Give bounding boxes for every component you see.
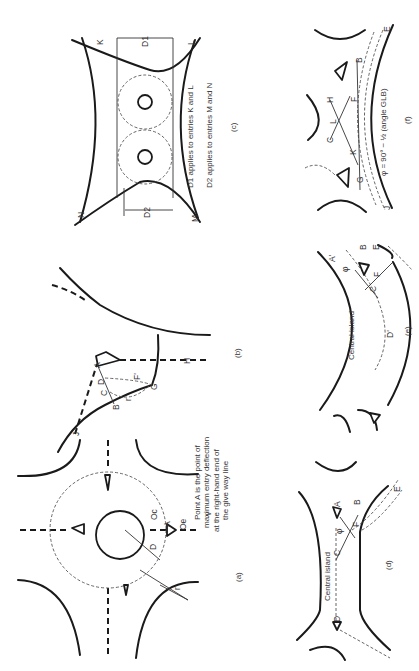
kerb-f-2 [318, 200, 366, 212]
label-L: L [186, 40, 196, 45]
note-a-3: at the right-hand end of [212, 448, 221, 532]
note-a-2: maximum entry deflection [202, 437, 211, 528]
label-phi: φ [340, 266, 350, 272]
label-J: J [382, 206, 392, 210]
caption-a: (a) [234, 572, 243, 582]
label-A: A [332, 501, 342, 507]
kerb-top [72, 38, 200, 71]
label-G: G [355, 176, 365, 183]
label-F-prime: F' [132, 373, 142, 380]
kerb-d-top [316, 462, 356, 471]
panel-b: A B C D F' G H J r (b) [52, 268, 242, 452]
label-N: N [76, 212, 86, 218]
label-M: M [190, 215, 200, 222]
label-A-prime: A' [327, 254, 337, 262]
caption-d: (d) [384, 560, 393, 570]
splitter-island-d2 [333, 622, 341, 630]
kerb-a-tr [136, 440, 198, 474]
label-Oc: Oc [149, 508, 159, 520]
label-J: J [71, 432, 81, 436]
mini-island-1 [138, 95, 152, 109]
label-C: C [325, 137, 335, 143]
panel-d: A B C D E F φ Central island (d) [297, 462, 402, 660]
kerb-a-bl [18, 580, 80, 655]
splitter-island-a-bottom [124, 585, 128, 595]
label-A: A [92, 362, 102, 368]
central-island-a [96, 511, 144, 559]
inscribed-circle-2 [118, 130, 172, 184]
caption-f: (f) [403, 116, 412, 124]
kerb-d-bottom [310, 647, 345, 660]
kerb-bottom [75, 181, 200, 225]
note-a-4: the give way line [221, 460, 230, 520]
kerb-f-1 [315, 30, 365, 39]
caption-b: (b) [233, 348, 242, 358]
splitter-island-f1 [335, 62, 347, 80]
kerb-a-br [136, 582, 198, 658]
label-C: C [99, 390, 109, 396]
island-label-d: Central island [323, 552, 332, 601]
splitter-island-d1 [333, 507, 341, 518]
kerb-f-island [307, 95, 319, 140]
label-C: C [332, 550, 342, 556]
kerb-b-upper [60, 268, 210, 335]
note-c-1: D1 applies to entries K and L [186, 85, 195, 188]
label-H: H [182, 358, 192, 364]
formula-f: φ = 90° − ½ (angle GLB) [379, 88, 388, 176]
label-r: r [123, 398, 133, 401]
label-E: E [382, 26, 392, 32]
label-B: B [352, 499, 362, 505]
island-label-e: Central island [347, 311, 356, 360]
label-F: F [349, 97, 359, 102]
label-D1: D1 [140, 36, 150, 47]
label-F: F [351, 522, 361, 527]
kerb-a-tl [18, 440, 80, 476]
label-K: K [95, 39, 105, 45]
splitter-island-e1 [359, 263, 369, 275]
caption-c: (c) [229, 122, 238, 132]
panel-e: A' B C D' E F φ Central island (e) [318, 244, 412, 432]
kerb-e-bottom-1 [334, 415, 350, 432]
label-r: r [172, 587, 182, 590]
note-c-2: D2 applies to entries M and N [205, 82, 214, 188]
splitter-island-a-top [105, 475, 110, 490]
label-E: E [371, 244, 381, 250]
roundabout-geometry-figure: D1 D2 K L M N D1 applies to entries K an… [0, 0, 419, 671]
label-B: B [111, 404, 121, 410]
label-B: B [358, 244, 368, 250]
label-phi: φ [334, 528, 344, 534]
mini-island-2 [138, 150, 152, 164]
label-F: F [372, 272, 382, 277]
label-L: L [328, 119, 338, 124]
note-a-1: Point A is the point of [193, 445, 202, 520]
label-A: A [162, 521, 172, 527]
panel-f: C H L F K G B E J φ = 90° − ½ (angle GLB… [305, 25, 412, 212]
splitter-island-f2 [337, 168, 349, 187]
splitter-island-a-left [72, 524, 84, 534]
label-E: E [392, 486, 402, 492]
label-K: K [348, 149, 358, 155]
label-Oe: Oe [178, 518, 188, 530]
label-C: C [368, 286, 378, 292]
label-D: D [96, 379, 106, 385]
panel-c: D1 D2 K L M N D1 applies to entries K an… [72, 36, 238, 225]
label-D2: D2 [142, 207, 152, 218]
label-D-prime: D' [385, 330, 395, 338]
label-D: D [332, 616, 342, 622]
label-G: G [149, 383, 159, 390]
inscribed-circle-1 [118, 75, 172, 129]
splitter-island-e2 [370, 413, 380, 423]
caption-e: (e) [403, 326, 412, 336]
label-B: B [354, 57, 364, 63]
label-D: D [148, 544, 158, 550]
kerb-d-island [297, 492, 321, 640]
kerb-left [80, 38, 96, 222]
label-H: H [325, 97, 335, 103]
panel-a: A D r Oc Oe v Point A is the point of ma… [18, 437, 243, 658]
